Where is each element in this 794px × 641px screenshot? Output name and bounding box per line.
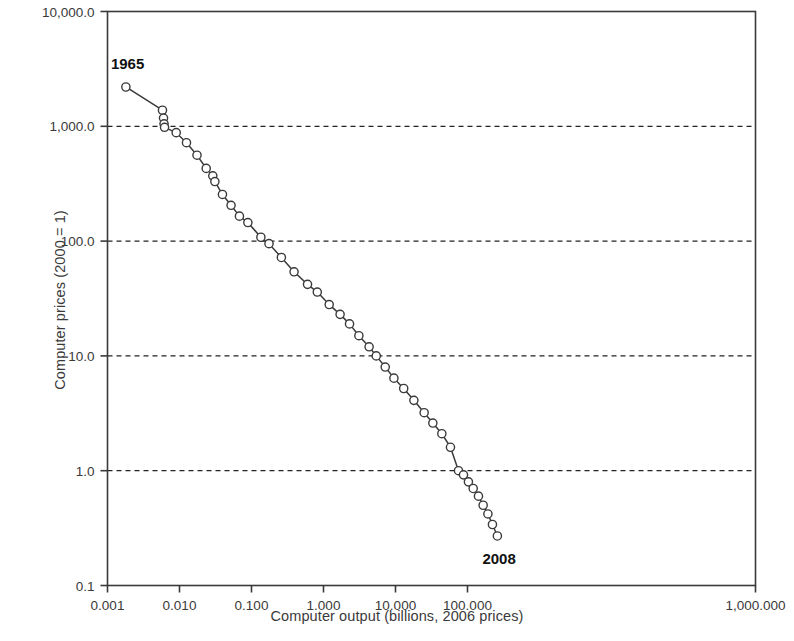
- plot-frame: [108, 12, 756, 586]
- data-line: [126, 87, 498, 536]
- data-point-marker: [438, 430, 446, 438]
- data-point-marker: [390, 374, 398, 382]
- data-point-marker: [381, 363, 389, 371]
- data-point-marker: [227, 201, 235, 209]
- data-point-marker: [420, 409, 428, 417]
- y-axis-tick-label: 1,000.0: [0, 119, 95, 134]
- x-axis-tick-label: 1,000.000: [725, 598, 785, 613]
- y-axis-tick-label: 0.1: [0, 578, 95, 593]
- x-axis-tick-label: 10.000: [375, 598, 416, 613]
- y-axis-tick-label: 10.0: [0, 348, 95, 363]
- data-point-marker: [277, 253, 285, 261]
- data-point-marker: [469, 484, 477, 492]
- y-axis-tick-label: 10,000.0: [0, 4, 95, 19]
- data-point-marker: [218, 190, 226, 198]
- data-point-marker: [313, 288, 321, 296]
- data-point-marker: [211, 177, 219, 185]
- data-point-marker: [336, 310, 344, 318]
- data-point-marker: [493, 532, 501, 540]
- data-point-marker: [345, 320, 353, 328]
- data-point-marker: [235, 212, 243, 220]
- chart-plot-area: [0, 0, 794, 641]
- data-point-marker: [325, 300, 333, 308]
- data-point-marker: [446, 443, 454, 451]
- data-point-marker: [474, 492, 482, 500]
- data-point-marker: [257, 233, 265, 241]
- annotation-1965: 1965: [111, 55, 144, 72]
- annotation-2008: 2008: [482, 550, 515, 567]
- data-point-marker: [484, 510, 492, 518]
- data-point-marker: [479, 501, 487, 509]
- data-point-marker: [429, 419, 437, 427]
- data-point-marker: [158, 106, 166, 114]
- data-point-marker: [488, 520, 496, 528]
- x-axis-tick-label: 100.000: [443, 598, 492, 613]
- x-axis-tick-label: 0.001: [91, 598, 125, 613]
- y-axis-tick-label: 100.0: [0, 234, 95, 249]
- data-point-marker: [182, 139, 190, 147]
- data-point-marker: [265, 240, 273, 248]
- data-point-marker: [290, 268, 298, 276]
- y-axis-title: Computer prices (2000 = 1): [52, 90, 68, 510]
- data-point-marker: [355, 332, 363, 340]
- data-point-marker: [160, 123, 168, 131]
- data-point-marker: [122, 83, 130, 91]
- chart-figure: Computer output (billions, 2006 prices) …: [0, 0, 794, 641]
- x-axis-tick-label: 1.000: [307, 598, 341, 613]
- data-point-marker: [365, 343, 373, 351]
- data-point-marker: [172, 129, 180, 137]
- data-point-marker: [410, 396, 418, 404]
- data-point-marker: [202, 164, 210, 172]
- data-point-marker: [372, 352, 380, 360]
- x-axis-tick-label: 0.100: [235, 598, 269, 613]
- data-point-marker: [303, 280, 311, 288]
- y-axis-tick-label: 1.0: [0, 463, 95, 478]
- x-axis-tick-label: 0.010: [163, 598, 197, 613]
- data-point-marker: [244, 218, 252, 226]
- data-point-marker: [400, 384, 408, 392]
- data-point-marker: [193, 151, 201, 159]
